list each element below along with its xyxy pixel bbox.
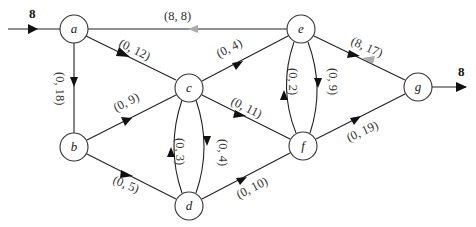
edge-f-e: (0, 2)	[280, 42, 300, 133]
edge-c-d: (0, 4)	[196, 100, 230, 193]
edge-label: (0, 3)	[173, 138, 187, 165]
node-b: b	[60, 133, 88, 161]
edge-b-c: (0, 9)	[87, 90, 176, 140]
edge-a-c: (0, 12)	[86, 36, 176, 80]
edge-d-c: (0, 3)	[167, 100, 187, 193]
source-input-edge: 8	[8, 6, 60, 34]
node-label: g	[415, 79, 422, 94]
edge-label: (0, 9)	[326, 68, 340, 95]
node-label: e	[298, 21, 304, 36]
source-flow-label: 8	[29, 6, 36, 21]
edge-c-f: (0, 11)	[202, 94, 290, 139]
arrow-icon	[314, 78, 322, 88]
arrow-icon	[456, 82, 467, 92]
edge-c-e: (0, 4)	[202, 36, 288, 81]
node-f: f	[289, 132, 317, 160]
edge-a-b: (0, 18)	[53, 43, 78, 133]
edge-label: (0, 18)	[53, 72, 67, 105]
node-g: g	[404, 73, 432, 101]
arrow-icon	[70, 77, 78, 87]
edge-d-f: (0, 10)	[202, 153, 290, 202]
node-label: a	[71, 21, 78, 36]
edge-label: (8, 8)	[164, 9, 191, 23]
edge-e-f: (0, 9)	[308, 42, 340, 133]
edge-b-d: (0, 5)	[87, 154, 176, 199]
sink-flow-label: 8	[458, 64, 465, 79]
edge-label: (0, 4)	[216, 139, 230, 166]
arrow-icon	[28, 24, 38, 34]
residual-arrow-icon	[188, 25, 198, 33]
node-label: d	[186, 198, 193, 213]
edge-a-e: (8, 8)	[88, 9, 287, 33]
arrow-icon	[350, 116, 361, 125]
edge-label: (0, 4)	[214, 36, 244, 61]
node-a: a	[60, 15, 88, 43]
node-label: c	[186, 80, 192, 95]
node-label: b	[71, 139, 78, 154]
node-c: c	[175, 74, 203, 102]
node-d: d	[175, 192, 203, 220]
sink-output-edge: 8	[432, 64, 467, 92]
edge-label: (0, 5)	[111, 173, 141, 196]
node-e: e	[287, 15, 315, 43]
edge-label: (0, 2)	[286, 68, 300, 95]
edge-label: (0, 9)	[111, 90, 141, 115]
arrow-icon	[232, 61, 243, 70]
flow-network-diagram: 8 8 (8, 8) (0, 12) (0, 18) (0, 9) (0, 5)	[0, 0, 476, 227]
edge-f-g: (0, 19)	[316, 94, 405, 145]
